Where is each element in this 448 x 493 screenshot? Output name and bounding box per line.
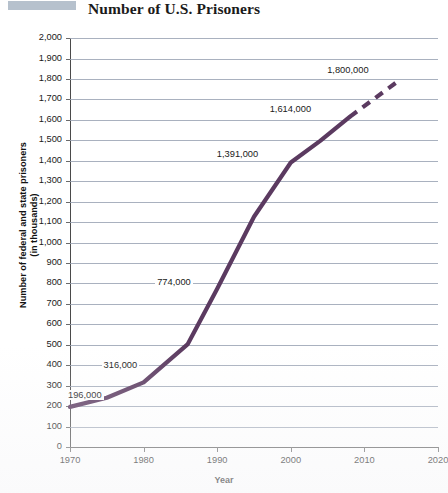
x-tick-mark [364,447,365,452]
y-tick-label: 700 [8,298,62,308]
y-tick-label: 200 [8,400,62,410]
x-axis-label: Year [0,475,448,485]
y-tick-label: 1,900 [8,53,62,63]
y-tick-label: 0 [8,441,62,451]
x-tick-mark [438,447,439,452]
gridline [70,447,438,448]
y-tick-label: 1,100 [8,216,62,226]
y-tick-label: 2,000 [8,32,62,42]
y-tick-label: 1,600 [8,114,62,124]
data-point-label: 1,800,000 [325,65,370,75]
chart-page: Number of U.S. Prisoners Number of feder… [0,0,448,493]
y-tick-label: 400 [8,359,62,369]
y-tick-label: 1,300 [8,175,62,185]
plot-area: 01002003004005006007008009001,0001,1001,… [70,38,438,447]
y-tick-label: 1,200 [8,196,62,206]
data-point-label: 774,000 [155,277,193,287]
y-tick-label: 800 [8,277,62,287]
x-tick-mark [291,447,292,452]
x-tick-label: 2010 [354,455,375,465]
x-tick-mark [144,447,145,452]
data-point-label: 316,000 [102,360,140,370]
y-tick-label: 1,700 [8,93,62,103]
x-tick-label: 2020 [428,455,448,465]
data-point-label: 1,391,000 [215,149,260,159]
data-point-label: 1,614,000 [268,104,313,114]
series-lines [70,38,438,447]
x-tick-mark [70,447,71,452]
y-tick-label: 1,500 [8,134,62,144]
y-tick-label: 100 [8,421,62,431]
x-tick-label: 1970 [60,455,81,465]
x-tick-label: 2000 [280,455,301,465]
x-tick-label: 1990 [207,455,228,465]
data-point-label: 196,000 [66,390,104,400]
y-tick-label: 600 [8,318,62,328]
y-tick-label: 1,800 [8,73,62,83]
line-projected [350,79,402,117]
y-tick-label: 500 [8,339,62,349]
scan-artifact-bar [8,1,76,10]
x-tick-label: 1980 [133,455,154,465]
y-tick-label: 1,000 [8,237,62,247]
y-tick-label: 900 [8,257,62,267]
x-tick-mark [217,447,218,452]
y-tick-label: 1,400 [8,155,62,165]
y-tick-label: 300 [8,380,62,390]
chart-title: Number of U.S. Prisoners [88,0,348,18]
